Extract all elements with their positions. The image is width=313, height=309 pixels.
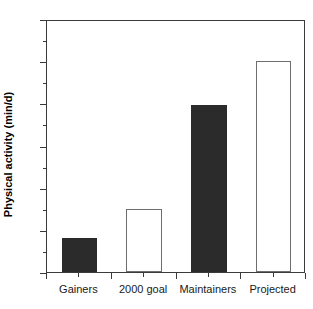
plot-area: [46, 20, 305, 273]
x-tick-center: [143, 273, 144, 277]
x-axis-tick-layer: [46, 273, 305, 283]
bar-2000-goal: [126, 209, 162, 272]
bar-group: [47, 21, 304, 272]
x-axis-label-group: Gainers2000 goalMaintainersProjected: [46, 283, 305, 303]
x-tick-label-2000-goal: 2000 goal: [119, 283, 167, 295]
x-tick-boundary: [305, 273, 306, 279]
bar-gainers: [62, 238, 98, 272]
x-tick-label-projected: Projected: [249, 283, 295, 295]
x-tick-boundary: [176, 273, 177, 279]
x-tick-boundary: [46, 273, 47, 279]
y-axis-title-text: Physical activity (min/d): [2, 92, 16, 217]
x-tick-center: [273, 273, 274, 277]
y-axis-title: Physical activity (min/d): [0, 0, 17, 309]
x-tick-label-maintainers: Maintainers: [179, 283, 236, 295]
x-tick-center: [78, 273, 79, 277]
x-tick-label-gainers: Gainers: [59, 283, 98, 295]
x-tick-boundary: [240, 273, 241, 279]
x-tick-center: [208, 273, 209, 277]
bar-chart-figure: Physical activity (min/d) 02040608010012…: [0, 0, 313, 309]
x-tick-boundary: [111, 273, 112, 279]
bar-maintainers: [191, 105, 227, 272]
bar-projected: [256, 61, 292, 272]
